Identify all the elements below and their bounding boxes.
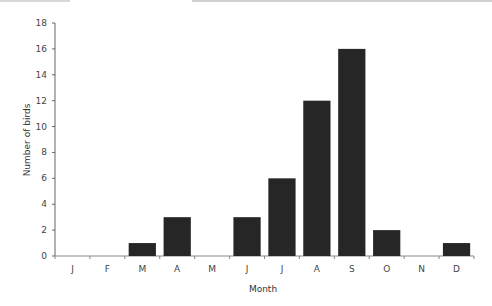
bar: [338, 49, 365, 256]
y-tick-label: 18: [36, 18, 48, 28]
y-tick-label: 12: [36, 96, 47, 106]
y-axis-title: Number of birds: [22, 103, 32, 176]
y-axis: 024681012141618: [36, 18, 55, 261]
x-tick-label: N: [418, 264, 425, 274]
x-tick-label: O: [383, 264, 390, 274]
x-axis: JFMAMJJASOND: [55, 256, 474, 274]
y-tick-label: 14: [36, 70, 48, 80]
x-tick-label: F: [105, 264, 110, 274]
bar: [443, 243, 470, 256]
y-tick-label: 2: [41, 225, 47, 235]
y-tick-label: 0: [41, 251, 47, 261]
x-tick-label: M: [208, 264, 216, 274]
y-tick-label: 8: [41, 147, 47, 157]
x-tick-label: J: [70, 264, 74, 274]
x-tick-label: A: [174, 264, 181, 274]
x-tick-label: D: [453, 264, 460, 274]
bar-chart: 024681012141618 JFMAMJJASOND Number of b…: [0, 0, 492, 306]
x-axis-title: Month: [249, 284, 277, 294]
bars: [129, 49, 470, 256]
bar: [164, 217, 191, 256]
x-tick-label: M: [138, 264, 146, 274]
x-tick-label: S: [349, 264, 355, 274]
bar: [233, 217, 260, 256]
bar: [373, 230, 400, 256]
bar: [129, 243, 156, 256]
y-tick-label: 4: [41, 199, 47, 209]
y-tick-label: 10: [36, 122, 48, 132]
x-tick-label: A: [314, 264, 321, 274]
bar: [303, 101, 330, 256]
x-tick-label: J: [280, 264, 284, 274]
y-tick-label: 6: [41, 173, 47, 183]
y-tick-label: 16: [36, 44, 48, 54]
bar: [268, 178, 295, 256]
x-tick-label: J: [245, 264, 249, 274]
